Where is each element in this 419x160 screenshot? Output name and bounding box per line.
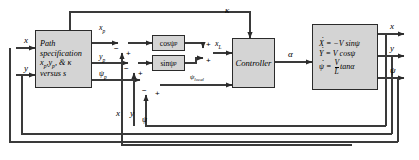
cos-label-sub: p [175,40,178,46]
sum-x-plus-sign: + [126,50,131,58]
path-spec-line-4: versus s [40,69,66,79]
sum-y-minus-sign: − [124,65,129,73]
sum-psi-minus-sign: − [142,87,147,95]
output-y-label: y [390,44,394,53]
sum-x-minus-sign: − [114,45,119,53]
vehicle-kinematics-block[interactable]: X = −V sinψ Y = V cosψ ψ = V L tanα [312,24,378,90]
sum-y-plus-sign: + [138,70,143,78]
path-spec-line-2: specification [40,49,82,59]
psip-label: ψp [99,70,107,80]
plant-equation-1: X = −V sinψ [319,39,360,49]
sin-label: sinψ [160,59,174,68]
xL-label: xL [215,40,222,50]
plant-equation-3: ψ = V L tanα [319,59,354,75]
plant-eq3-fraction: V L [334,59,339,75]
cos-label: cosψ [160,39,175,48]
plant-eq3-lhs: ψ [319,62,324,72]
path-spec-line-1: Path [40,39,55,49]
plant-eq2-rhs: = V cosψ [325,49,355,58]
plant-eq3-denominator: L [335,67,339,76]
block-diagram-canvas: Path specification xp,yp, & κ versus s c… [0,0,419,160]
output-x-label: x [390,22,394,31]
controller-label: Controller [236,58,272,68]
xp-label: xp [99,24,105,34]
sum-psi-plus-sign: + [155,90,160,98]
psi-local-label: ψlocal [190,74,204,83]
path-spec-line-3: xp,yp, & κ [40,58,71,69]
plant-eq3-tail: tanα [340,62,354,72]
alpha-label: α [288,50,293,59]
plant-eq3-numerator: V [334,59,339,67]
feedback-y-label: y [130,109,134,118]
input-y-label: y [24,64,28,73]
kappa-label: κ [225,6,229,15]
cos-psi-p-block[interactable]: cosψp [152,35,185,51]
sin-psi-p-block[interactable]: sinψp [152,55,185,71]
feedback-x-label: x [116,109,120,118]
sum-xL-plus-bottom-sign: + [206,57,211,65]
path-specification-block[interactable]: Path specification xp,yp, & κ versus s [35,30,92,88]
output-psi-label: ψ [390,66,396,75]
plant-eq3-equals: = [326,62,331,72]
controller-block[interactable]: Controller [232,38,275,88]
input-x-label: x [24,36,28,45]
sin-label-sub: p [174,60,177,66]
path-spec-kappa: , & κ [55,58,71,67]
sum-xL-plus-top-sign: + [206,41,211,49]
plant-eq1-rhs: = −V sinψ [326,39,360,48]
yp-label: yp [99,53,105,63]
feedback-psi-label: ψ [142,116,147,124]
